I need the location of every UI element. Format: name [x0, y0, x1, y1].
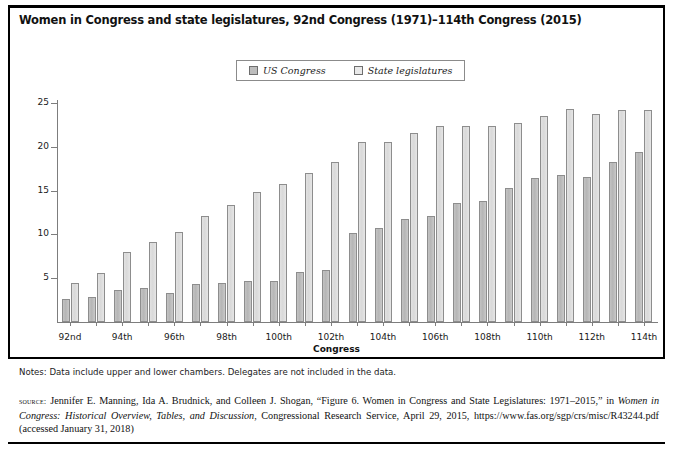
frame-bottom-rule — [8, 442, 665, 444]
bar-group — [140, 103, 157, 322]
bar-state-legislatures — [123, 252, 131, 322]
bar-state-legislatures — [514, 123, 522, 322]
x-axis-tick-label: 98th — [207, 332, 247, 342]
bar-us-congress — [453, 203, 461, 322]
legend-item-state-legislatures: State legislatures — [354, 65, 453, 76]
bar-state-legislatures — [488, 126, 496, 322]
figure-source: source: Jennifer E. Manning, Ida A. Brud… — [19, 394, 659, 436]
bar-state-legislatures — [97, 273, 105, 322]
chart-legend: US Congress State legislatures — [236, 60, 465, 81]
bar-state-legislatures — [227, 205, 235, 322]
x-axis-tick — [435, 322, 436, 326]
x-axis-tick-label: 112th — [572, 332, 612, 342]
bar-group — [479, 103, 496, 322]
frame-top-rule — [8, 5, 665, 8]
frame-right-rule — [663, 5, 665, 357]
x-axis-tick — [253, 322, 254, 326]
y-axis-tick-label: 5 — [25, 272, 49, 282]
x-axis-tick-label: 92nd — [50, 332, 90, 342]
bar-us-congress — [583, 177, 591, 322]
x-axis-tick — [644, 322, 645, 326]
bar-group — [62, 103, 79, 322]
bar-state-legislatures — [358, 142, 366, 322]
x-axis-tick — [305, 322, 306, 326]
bar-us-congress — [609, 162, 617, 322]
bar-group — [114, 103, 131, 322]
bar-series-container — [57, 103, 657, 322]
legend-label-state-legislatures: State legislatures — [368, 65, 453, 76]
bar-state-legislatures — [540, 116, 548, 322]
bar-state-legislatures — [253, 192, 261, 322]
bar-state-legislatures — [71, 283, 79, 322]
bar-state-legislatures — [462, 126, 470, 322]
bar-state-legislatures — [175, 232, 183, 322]
x-axis-tick-label: 108th — [467, 332, 507, 342]
x-axis-tick — [70, 322, 71, 326]
bar-us-congress — [218, 283, 226, 322]
bar-group — [218, 103, 235, 322]
x-axis-tick — [592, 322, 593, 326]
bar-state-legislatures — [201, 216, 209, 322]
frame-left-rule — [8, 5, 10, 357]
bar-us-congress — [635, 152, 643, 322]
x-axis-tick — [487, 322, 488, 326]
bar-state-legislatures — [410, 133, 418, 322]
y-axis-tick-label: 15 — [25, 185, 49, 195]
bar-state-legislatures — [279, 184, 287, 322]
bar-group — [166, 103, 183, 322]
bar-us-congress — [401, 219, 409, 322]
legend-item-us-congress: US Congress — [249, 65, 326, 76]
bar-state-legislatures — [331, 162, 339, 322]
bar-us-congress — [114, 290, 122, 322]
bar-us-congress — [322, 270, 330, 322]
bar-us-congress — [296, 272, 304, 322]
legend-swatch-us-congress — [249, 66, 258, 75]
x-axis-tick — [174, 322, 175, 326]
bar-us-congress — [270, 281, 278, 322]
bar-group — [322, 103, 339, 322]
x-axis-tick — [357, 322, 358, 326]
bar-us-congress — [140, 288, 148, 322]
x-axis-tick-label: 104th — [363, 332, 403, 342]
bar-group — [401, 103, 418, 322]
x-axis-tick — [566, 322, 567, 326]
bar-state-legislatures — [436, 126, 444, 322]
bar-us-congress — [531, 178, 539, 322]
bar-us-congress — [505, 188, 513, 322]
legend-swatch-state-legislatures — [354, 66, 363, 75]
frame-mid-rule — [8, 357, 665, 359]
bar-us-congress — [244, 281, 252, 322]
bar-group — [88, 103, 105, 322]
bar-state-legislatures — [566, 109, 574, 322]
x-axis-tick-label: 114th — [624, 332, 664, 342]
bar-state-legislatures — [592, 114, 600, 322]
x-axis-tick — [540, 322, 541, 326]
figure-notes: Notes: Data include upper and lower cham… — [19, 367, 639, 377]
figure-title: Women in Congress and state legislatures… — [19, 13, 649, 27]
bar-state-legislatures — [618, 110, 626, 322]
bar-group — [583, 103, 600, 322]
bar-us-congress — [557, 175, 565, 322]
bar-us-congress — [88, 297, 96, 322]
bar-state-legislatures — [644, 110, 652, 322]
bar-us-congress — [427, 216, 435, 322]
x-axis-tick-label: 94th — [102, 332, 142, 342]
x-axis-tick-label: 106th — [415, 332, 455, 342]
plot-area — [57, 103, 657, 322]
bar-group — [453, 103, 470, 322]
x-axis-tick — [409, 322, 410, 326]
bar-group — [375, 103, 392, 322]
bar-us-congress — [349, 233, 357, 322]
bar-group — [505, 103, 522, 322]
x-axis-tick — [96, 322, 97, 326]
bar-group — [531, 103, 548, 322]
bar-group — [557, 103, 574, 322]
x-axis-tick — [227, 322, 228, 326]
x-axis-tick — [122, 322, 123, 326]
bar-group — [635, 103, 652, 322]
bar-us-congress — [62, 299, 70, 322]
x-axis-tick-label: 102th — [311, 332, 351, 342]
x-axis-tick — [279, 322, 280, 326]
bar-group — [427, 103, 444, 322]
x-axis-tick-label: 100th — [259, 332, 299, 342]
